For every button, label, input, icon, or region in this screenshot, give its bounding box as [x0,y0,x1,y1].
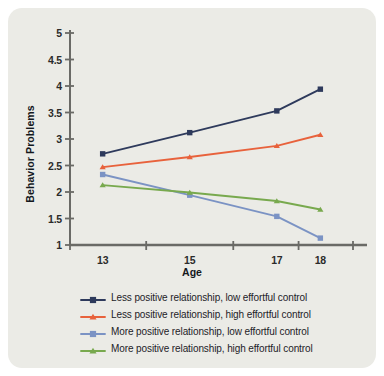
legend-label: Less positive relationship, low effortfu… [111,292,307,303]
x-tick-label: 18 [305,254,335,266]
x-tick-label: 15 [175,254,205,266]
y-axis-title: Behavior Problems [24,94,36,214]
x-tick-label: 13 [88,254,118,266]
legend-item-3[interactable]: More positive relationship, low effortfu… [8,323,376,340]
legend-item-1[interactable]: Less positive relationship, low effortfu… [8,289,376,306]
legend-item-2[interactable]: Less positive relationship, high effortf… [8,306,376,323]
x-axis-title: Age [8,266,376,278]
chart-figure: 11.522.533.544.55 13151718 Behavior Prob… [8,8,376,368]
legend-marker-square-icon [80,326,106,338]
legend-marker-triangle-icon [80,343,106,355]
data-point-marker [90,296,96,302]
legend-label: Less positive relationship, high effortf… [111,309,311,320]
legend-label: More positive relationship, high effortf… [111,343,313,354]
chart-legend: Less positive relationship, low effortfu… [8,289,376,357]
data-point-marker [90,330,96,336]
legend-marker-triangle-icon [80,309,106,321]
x-tick-label: 17 [262,254,292,266]
legend-marker-square-icon [80,292,106,304]
legend-item-4[interactable]: More positive relationship, high effortf… [8,340,376,357]
legend-label: More positive relationship, low effortfu… [111,326,309,337]
